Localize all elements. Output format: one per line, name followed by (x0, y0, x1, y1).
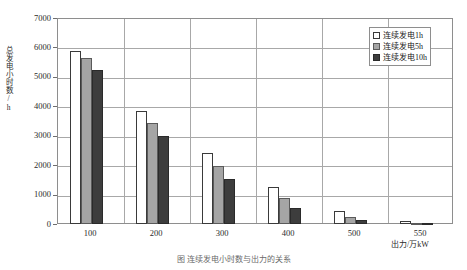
y-axis-tick-label: 0 (17, 220, 51, 229)
legend-item: 连续发电5h (373, 41, 427, 52)
y-axis-title: 总发电小时数/h (0, 46, 13, 146)
y-axis-tick-mark (53, 195, 57, 196)
bar (356, 220, 367, 224)
x-axis-title: 出力/万kW (391, 240, 429, 250)
gridline (58, 137, 452, 138)
gridline (58, 107, 452, 108)
x-axis-tick-label: 400 (258, 228, 318, 238)
x-axis-tick-label: 100 (60, 228, 120, 238)
bar (213, 166, 224, 224)
category-separator (190, 19, 191, 223)
gridline (58, 78, 452, 79)
category-separator (256, 19, 257, 223)
y-axis-tick-mark (53, 47, 57, 48)
bar (202, 153, 213, 224)
y-axis-tick-label: 4000 (17, 102, 51, 111)
y-axis-tick-mark (53, 106, 57, 107)
category-separator (322, 19, 323, 223)
bar (92, 70, 103, 224)
legend-swatch-icon (373, 43, 380, 50)
bar (422, 223, 433, 225)
x-axis-tick-label: 300 (192, 228, 252, 238)
legend: 连续发电1h连续发电5h连续发电10h (369, 27, 431, 66)
bar (158, 136, 169, 224)
y-axis-tick-mark (53, 136, 57, 137)
y-axis-tick-label: 7000 (17, 14, 51, 23)
y-axis-tick-label: 3000 (17, 131, 51, 140)
bar (279, 198, 290, 225)
bar (136, 111, 147, 224)
figure-caption: 图 连续发电小时数与出力的关系 (0, 255, 467, 265)
bar (268, 187, 279, 224)
y-axis-tick-mark (53, 77, 57, 78)
bar (290, 208, 301, 224)
legend-swatch-icon (373, 54, 380, 61)
legend-item: 连续发电1h (373, 30, 427, 41)
y-axis-tick-label: 2000 (17, 161, 51, 170)
legend-label: 连续发电1h (383, 31, 423, 40)
legend-swatch-icon (373, 32, 380, 39)
y-axis-tick-label: 1000 (17, 190, 51, 199)
y-axis-tick-label: 5000 (17, 72, 51, 81)
bar (411, 223, 422, 225)
bar (147, 123, 158, 225)
x-axis-tick-label: 200 (126, 228, 186, 238)
bar (81, 58, 92, 224)
bar (224, 179, 235, 224)
figure-container: 总发电小时数/h 01000200030004000500060007000 1… (0, 0, 467, 270)
category-separator (124, 19, 125, 223)
y-axis-tick-mark (53, 165, 57, 166)
y-axis-tick-label: 6000 (17, 43, 51, 52)
gridline (58, 196, 452, 197)
legend-item: 连续发电10h (373, 52, 427, 63)
bar (345, 217, 356, 224)
bar (334, 211, 345, 224)
x-axis-tick-label: 500 (324, 228, 384, 238)
gridline (58, 166, 452, 167)
bar (400, 221, 411, 224)
legend-label: 连续发电5h (383, 42, 423, 51)
x-axis-tick-label: 550 (390, 228, 450, 238)
legend-label: 连续发电10h (383, 53, 427, 62)
y-axis-tick-mark (53, 18, 57, 19)
bar (70, 51, 81, 224)
y-axis-tick-mark (53, 224, 57, 225)
